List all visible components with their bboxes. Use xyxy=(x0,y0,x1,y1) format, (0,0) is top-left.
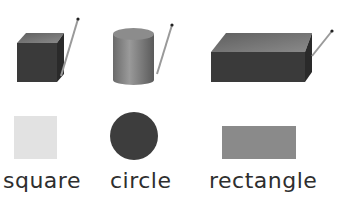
cube-front-face xyxy=(17,43,57,82)
pencil-icon xyxy=(312,31,332,56)
square-shape xyxy=(14,116,57,159)
cylinder-solid xyxy=(113,23,174,85)
circle-shape xyxy=(110,112,158,160)
pencil-icon xyxy=(157,25,172,74)
prism-top-face xyxy=(211,33,312,52)
pencil-tip-icon xyxy=(76,17,79,20)
circle-label: circle xyxy=(110,168,172,194)
prism-front-face xyxy=(211,52,305,82)
cylinder-body xyxy=(113,34,154,85)
rectangle-label: rectangle xyxy=(209,168,317,194)
cylinder-top-face xyxy=(113,28,154,40)
square-label: square xyxy=(3,168,81,194)
pencil-tip-icon xyxy=(170,23,173,26)
cube-solid xyxy=(17,17,80,82)
pencil-tip-icon xyxy=(330,29,333,32)
rectangular-prism-solid xyxy=(211,29,334,82)
rectangle-shape xyxy=(222,126,296,159)
cube-top-face xyxy=(17,33,64,43)
